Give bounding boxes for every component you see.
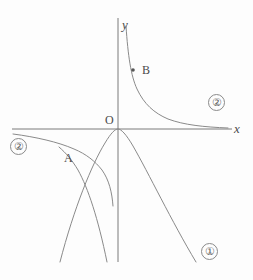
point-b-label: B (142, 64, 150, 76)
x-axis-label: x (234, 122, 240, 135)
origin-label: O (105, 114, 114, 126)
hyperbola-label-right: ② (208, 94, 225, 111)
hyperbola-label-left: ② (10, 138, 27, 155)
parabola-label: ① (201, 243, 218, 260)
y-axis-label: y (122, 18, 128, 31)
point-a-label: A (64, 152, 73, 164)
math-figure: y x O A B ① ② ② (0, 0, 253, 280)
hyperbola-branch-upper-right (126, 26, 228, 128)
figure-canvas (0, 0, 253, 280)
parabola-curve-1 (60, 129, 196, 262)
hyperbola-branch-lower-left (13, 134, 113, 206)
point-b-dot (131, 68, 135, 72)
